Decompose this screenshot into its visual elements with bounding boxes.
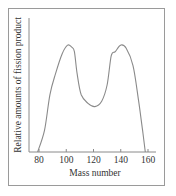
x-tick-label: 120 bbox=[86, 155, 101, 165]
chart: 80100120140160 Mass number Relative amou… bbox=[0, 0, 176, 196]
x-tick-label: 140 bbox=[114, 155, 129, 165]
y-axis-title: Relative amounts of fission product bbox=[13, 17, 23, 153]
x-tick-label: 160 bbox=[141, 155, 156, 165]
axes bbox=[29, 18, 156, 152]
x-tick-labels: 80100120140160 bbox=[34, 155, 155, 165]
yield-curve bbox=[38, 45, 146, 152]
x-tick-label: 80 bbox=[34, 155, 44, 165]
x-tick-label: 100 bbox=[59, 155, 74, 165]
x-axis-title: Mass number bbox=[69, 168, 121, 178]
